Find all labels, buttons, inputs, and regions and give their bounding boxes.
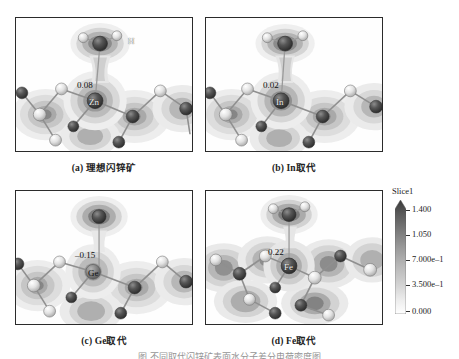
colorbar-tick-3: 3.500e–1	[406, 279, 443, 289]
density-map-d	[206, 191, 382, 324]
atom-label-center-c: Ge	[88, 268, 99, 278]
density-map-a	[16, 18, 192, 151]
panel-b: 0.02 In	[205, 17, 383, 152]
caption-panel-a: (a) 理想闪锌矿	[15, 160, 193, 174]
charge-value-b: 0.02	[263, 80, 279, 90]
atom-label-center-b: In	[276, 97, 284, 107]
charge-value-c: –0.15	[75, 250, 95, 260]
figure-root: H 0.08 Zn (a) 理想闪锌矿	[0, 0, 459, 359]
colorbar-tick-0: 1.400	[406, 204, 431, 214]
colorbar-tick-1: 1.050	[406, 229, 431, 239]
caption-panel-c: (c) Ge取代	[15, 333, 193, 347]
atom-label-center-a: Zn	[89, 97, 99, 107]
panel-d: 0.22 Fe	[205, 190, 383, 325]
colorbar-legend: Slice1	[390, 186, 459, 326]
colorbar-tick-4: 0.000	[406, 306, 431, 316]
density-map-b	[206, 18, 382, 151]
caption-panel-d: (d) Fe取代	[205, 333, 383, 347]
charge-value-d: 0.22	[268, 247, 284, 257]
panel-c: –0.15 Ge	[15, 190, 193, 325]
density-map-c	[16, 191, 192, 324]
colorbar-tick-list: 1.400 1.050 7.000e–1 3.500e–1 0.000	[406, 200, 459, 314]
atom-label-center-d: Fe	[284, 262, 293, 272]
colorbar-gradient	[395, 200, 406, 314]
colorbar-title: Slice1	[392, 186, 413, 196]
figure-bottom-caption: 图 不同取代闪锌矿表面水分子差分电荷密度图	[0, 350, 459, 359]
charge-value-a: 0.08	[77, 80, 93, 90]
colorbar-tick-2: 7.000e–1	[406, 254, 443, 264]
atom-label-h-a: H	[128, 36, 135, 46]
caption-panel-b: (b) In取代	[205, 160, 383, 174]
panel-a: H 0.08 Zn	[15, 17, 193, 152]
